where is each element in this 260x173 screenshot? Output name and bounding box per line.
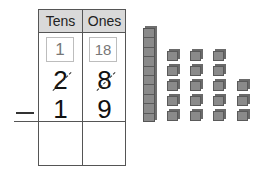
answer-ones-cell[interactable] — [83, 132, 126, 162]
unit-cube — [237, 111, 248, 121]
place-value-table: Tens Ones 1 18 2 8 1 9 — [38, 9, 126, 166]
crossed-digit: 2 — [53, 67, 67, 93]
unit-cube — [190, 96, 201, 106]
unit-cube — [190, 111, 201, 121]
unit-cube — [237, 81, 248, 91]
unit-cube — [190, 81, 201, 91]
minus-sign — [16, 112, 34, 114]
subtrahend-tens: 1 — [39, 96, 82, 122]
unit-cube — [213, 66, 224, 76]
unit-cube — [190, 51, 201, 61]
tens-rod-block — [143, 28, 155, 122]
unit-cube — [213, 111, 224, 121]
answer-tens-cell[interactable] — [39, 132, 82, 162]
header-ones: Ones — [83, 10, 126, 32]
minuend-tens: 2 — [39, 67, 82, 93]
unit-cube — [237, 96, 248, 106]
regroup-box-ones[interactable]: 18 — [89, 37, 117, 62]
unit-cube — [213, 96, 224, 106]
answer-line — [14, 121, 126, 122]
unit-cube — [167, 96, 178, 106]
minuend-ones: 8 — [83, 67, 126, 93]
unit-cube — [167, 81, 178, 91]
header-tens: Tens — [39, 10, 82, 32]
unit-cube — [167, 66, 178, 76]
unit-cube — [167, 111, 178, 121]
unit-cube — [167, 51, 178, 61]
crossed-digit: 8 — [97, 67, 111, 93]
unit-cube — [213, 51, 224, 61]
unit-cube — [213, 81, 224, 91]
subtrahend-ones: 9 — [83, 96, 126, 122]
unit-cube — [190, 66, 201, 76]
regroup-box-tens[interactable]: 1 — [46, 37, 74, 62]
